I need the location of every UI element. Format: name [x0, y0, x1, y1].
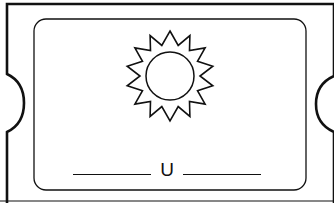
given-letter: U	[160, 160, 174, 180]
blank-2[interactable]	[183, 173, 261, 175]
word-fill-row: U	[0, 158, 334, 180]
blank-1[interactable]	[73, 173, 151, 175]
sun-icon	[127, 31, 213, 121]
